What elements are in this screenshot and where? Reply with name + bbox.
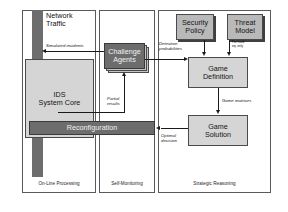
edge-optimal-decision-line [161,128,188,129]
network-traffic-label: Network Traffic [46,12,73,29]
edge-simulated-incidents-label: Simulated incidents [46,43,84,48]
security-policy-box: Security Policy [176,14,214,40]
edge-optimal-decision-label: Optimal decision [161,133,177,143]
threat-model-box: Threat Model [227,14,263,40]
edge-simulated-incidents-line [45,51,104,52]
edge-threat-model-arrowhead [227,52,231,56]
edge-game-matrices-label: Game matrices [222,98,251,103]
game-solution-box: Game Solution [188,115,248,146]
edge-detection-probabilities-label: Detection probabilities [159,41,182,51]
game-definition-box: Game Definition [188,57,248,88]
edge-simulated-incidents-arrowhead [42,49,46,53]
edge-threat-model-note-label: For fixed eq. only [232,41,244,48]
edge-partial-results-horizontal [58,112,124,113]
challenge-agents-box: Challenge Agents [104,43,145,69]
edge-partial-results-arrowhead [122,72,126,76]
edge-game-matrices-arrowhead [216,110,220,114]
panel-label-online-processing: On-Line Processing [22,182,96,187]
panel-label-strategic-reasoning: Strategic Reasoning [158,182,271,187]
edge-partial-results-label: Partial results [107,96,120,106]
panel-label-self-monitoring: Self-Monitoring [99,182,155,187]
edge-game-matrices-line [218,88,219,111]
edge-detection-probabilities-line [145,59,185,60]
reconfiguration-box: Reconfiguration [29,121,155,135]
edge-partial-results-vertical [124,76,125,113]
architecture-diagram: Network Traffic IDS System Core Reconfig… [0,0,288,212]
edge-optimal-decision-arrowhead [156,126,160,130]
edge-detection-probabilities-arrowhead [184,57,188,61]
edge-security-policy-arrowhead [202,52,206,56]
network-traffic-bar-lower [32,137,43,177]
